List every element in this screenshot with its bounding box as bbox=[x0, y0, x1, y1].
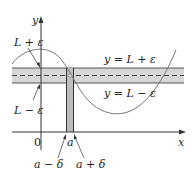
y-axis-label: y bbox=[31, 14, 39, 27]
origin-label: 0 bbox=[34, 136, 41, 149]
lower-band-label: y = L − ε bbox=[103, 87, 156, 100]
a-plus-delta-label: a + δ bbox=[76, 158, 106, 171]
y-axis-arrow-icon bbox=[39, 16, 44, 23]
limit-point-hole bbox=[68, 74, 71, 77]
l-minus-epsilon-label: L − ε bbox=[13, 104, 44, 117]
left-delta-pointer bbox=[58, 137, 65, 158]
l-plus-epsilon-label: L + ε bbox=[13, 36, 44, 49]
a-minus-delta-label: a − δ bbox=[34, 158, 64, 171]
left-delta-pointer-arrow-icon bbox=[63, 134, 66, 140]
x-axis-arrow-icon bbox=[179, 130, 186, 135]
epsilon-delta-diagram: y x 0 L + ε L − ε y = L + ε y = L − ε a … bbox=[0, 0, 192, 184]
a-label: a bbox=[67, 136, 74, 149]
x-axis-label: x bbox=[178, 136, 185, 149]
right-delta-pointer bbox=[75, 137, 84, 158]
right-delta-pointer-arrow-icon bbox=[74, 134, 77, 140]
upper-band-label: y = L + ε bbox=[103, 53, 156, 66]
lower-pointer-arrow-icon bbox=[37, 84, 40, 89]
